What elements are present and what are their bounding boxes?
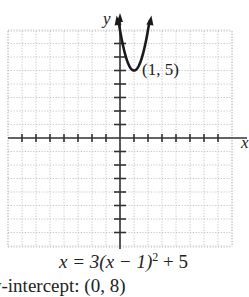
equation-caption: x = 3(x − 1)2 + 5 (0, 250, 247, 273)
arrowheads (115, 13, 154, 25)
y-axis-label: y (103, 9, 111, 29)
equation-main: x = 3(x − 1) (59, 251, 152, 272)
equation-tail: + 5 (158, 251, 188, 272)
x-axis-label: x (241, 133, 249, 153)
vertex-label: (1, 5) (142, 60, 179, 80)
y-intercept-note: y-intercept: (0, 8) (0, 275, 125, 297)
axes (8, 18, 247, 249)
